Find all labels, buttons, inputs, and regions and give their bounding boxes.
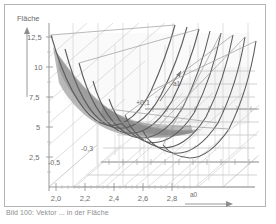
z-tick-minus-0-3: -0,3 [81,145,93,152]
y-tick-2-5: 2,5 [29,153,39,162]
y-tick-7-5: 7,5 [29,93,39,102]
x-tick-2-2: 2,2 [80,194,90,203]
x-tick-2-6: 2,6 [138,194,148,203]
z-axis-title: a1 [173,80,181,87]
figure-frame: Fläche 12,5 10 7,5 5 2,5 2,0 2,2 2,4 2,6… [4,4,266,207]
x-tick-2-4: 2,4 [109,194,119,203]
z-tick-plus-0-1: +0,1 [136,99,150,106]
z-tick-minus-0-1: -0,1 [116,122,128,129]
y-axis-title: Fläche [17,14,40,23]
x-tick-2-0: 2,0 [51,194,61,203]
y-tick-12-5: 12,5 [27,33,42,42]
y-tick-10: 10 [34,63,42,72]
x-axis [49,183,255,191]
x-axis-title: a0 [190,191,198,198]
z-tick-minus-0-5: -0,5 [48,159,60,166]
figure-caption: Bild 100: Vektor ... in der Fläche [6,209,274,223]
x-axis-arrow [185,201,233,207]
x-tick-2-8: 2,8 [167,194,177,203]
y-tick-5: 5 [36,123,40,132]
surface-plot-3d: Fläche 12,5 10 7,5 5 2,5 2,0 2,2 2,4 2,6… [5,5,267,208]
